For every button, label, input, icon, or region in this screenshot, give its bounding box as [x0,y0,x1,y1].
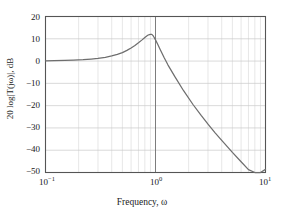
y-tick-label-10: 10 [18,35,40,44]
x-tick-mantissa-0dot1: 10 [39,177,48,187]
bode-magnitude-figure: 20 10 0 −10 −20 −30 −40 −50 10−1 100 101… [0,0,284,220]
x-tick-label-0dot1: 10−1 [30,178,64,187]
y-axis-label: 20 log|T(jω)|, dB [6,19,15,159]
x-tick-label-1: 100 [139,178,173,187]
y-tick-label-m10: −10 [18,79,40,88]
y-tick-label-m20: −20 [18,101,40,110]
x-tick-exponent-1: 0 [159,175,162,182]
y-tick-label-m30: −30 [18,123,40,132]
x-tick-label-10: 101 [248,178,282,187]
y-tick-label-m50: −50 [18,167,40,176]
plot-area [0,0,284,220]
y-tick-label-m40: −40 [18,145,40,154]
y-axis-label-container: 20 log|T(jω)|, dB [2,0,18,180]
y-tick-label-0: 0 [18,57,40,66]
y-tick-label-20: 20 [18,13,40,22]
x-tick-mantissa-1: 10 [150,177,159,187]
x-tick-exponent-10: 1 [268,175,271,182]
x-tick-exponent-0dot1: −1 [48,175,55,182]
grid-minor-lines [79,17,261,173]
x-axis-label: Frequency, ω [0,198,284,208]
x-tick-mantissa-10: 10 [259,177,268,187]
